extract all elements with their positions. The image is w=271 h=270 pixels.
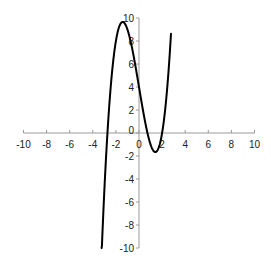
y-tick-label: 4 (128, 82, 134, 93)
x-tick-label: -4 (88, 139, 97, 150)
y-tick-label: -2 (125, 151, 134, 162)
y-tick-label: -6 (125, 197, 134, 208)
y-tick-label: 0 (128, 125, 134, 136)
x-tick-label: -6 (65, 139, 74, 150)
x-tick-label: 4 (182, 139, 188, 150)
x-tick-label: 6 (206, 139, 212, 150)
x-tick-label: 8 (229, 139, 235, 150)
y-tick-label: -4 (125, 174, 134, 185)
cubic-function-chart: -10-8-6-4-20246810 -10-8-6-4-20246810 (0, 0, 271, 270)
x-tick-label: 10 (249, 139, 261, 150)
x-axis-tick-labels: -10-8-6-4-20246810 (16, 139, 260, 150)
function-curve (102, 22, 171, 248)
x-tick-label: -10 (16, 139, 31, 150)
y-tick-label: -8 (125, 220, 134, 231)
y-tick-label: 2 (128, 105, 134, 116)
y-tick-label: -10 (120, 243, 135, 254)
x-tick-label: -2 (111, 139, 120, 150)
x-tick-label: 0 (136, 139, 142, 150)
x-tick-label: -8 (42, 139, 51, 150)
